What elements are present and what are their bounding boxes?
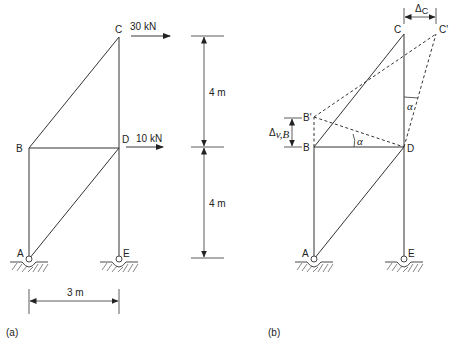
- node-label-b: B: [16, 143, 23, 154]
- node-label-a: A: [302, 248, 309, 259]
- angle-arc-d-icon: [353, 134, 355, 147]
- member-bc: [314, 34, 404, 147]
- node-label-c: C: [115, 24, 122, 35]
- pin-support-e-icon: [385, 256, 423, 272]
- displaced-b-prime-c-prime: [314, 34, 436, 117]
- node-label-c: C: [394, 24, 401, 35]
- dim-label-lower: 4 m: [209, 198, 226, 209]
- node-label-e: E: [123, 248, 130, 259]
- dim-label-upper: 4 m: [209, 87, 226, 98]
- displaced-d-c-prime: [404, 34, 436, 147]
- delta-vb-label: Δv,B: [269, 127, 290, 140]
- load-label-c: 30 kN: [130, 21, 156, 32]
- node-label-b-prime: B': [303, 112, 312, 123]
- caption-a: (a): [6, 327, 18, 338]
- caption-b: (b): [268, 327, 280, 338]
- panel-a: C B D A E 30 kN 10 kN 4 m 4 m 3 m (a): [6, 21, 226, 338]
- angle-label-d: α: [357, 135, 363, 147]
- load-label-d: 10 kN: [136, 133, 162, 144]
- pin-support-e-icon: [100, 256, 138, 272]
- panel-b: C C' B' B D A E ΔC Δv,B α α (b): [268, 3, 448, 338]
- node-label-a: A: [17, 248, 24, 259]
- node-label-d: D: [122, 134, 129, 145]
- node-label-c-prime: C': [439, 24, 448, 35]
- pin-support-a-icon: [295, 256, 333, 272]
- node-label-b: B: [303, 142, 310, 153]
- node-label-e: E: [408, 248, 415, 259]
- truss-figure: C B D A E 30 kN 10 kN 4 m 4 m 3 m (a): [0, 0, 457, 345]
- angle-label-cd: α: [407, 100, 413, 112]
- pin-support-a-icon: [10, 256, 48, 272]
- delta-c-label: ΔC: [415, 3, 429, 16]
- member-bc: [29, 37, 119, 148]
- member-ad: [29, 148, 119, 259]
- angle-arc-cd-icon: [404, 97, 418, 98]
- dim-label-width: 3 m: [67, 287, 84, 298]
- height-dimension: [191, 36, 224, 258]
- member-ad: [314, 147, 404, 259]
- node-label-d: D: [407, 143, 414, 154]
